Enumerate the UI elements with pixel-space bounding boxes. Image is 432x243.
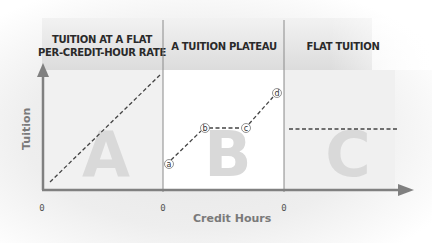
svg-text:a: a: [167, 160, 172, 169]
point-d: d: [273, 89, 282, 99]
tuition-models-diagram: A B C TUITION AT A FLAT PER-CREDIT-HOUR …: [0, 0, 432, 243]
panel-c-heading: FLAT TUITION: [307, 41, 380, 52]
point-b: b: [201, 124, 210, 134]
svg-text:d: d: [274, 89, 279, 98]
panel-b-origin-label: 0: [160, 203, 165, 213]
panel-a-letter: A: [82, 118, 130, 191]
svg-text:b: b: [202, 124, 207, 133]
panel-b-heading: A TUITION PLATEAU: [171, 41, 277, 52]
x-axis-arrow-icon: [398, 184, 414, 196]
panel-a-origin-label: 0: [39, 203, 44, 213]
x-axis-label: Credit Hours: [193, 212, 272, 225]
diagram-canvas: A B C TUITION AT A FLAT PER-CREDIT-HOUR …: [0, 0, 432, 243]
panel-a-heading-line1: TUITION AT A FLAT: [52, 34, 152, 45]
panel-a-heading-line2: PER-CREDIT-HOUR RATE: [38, 47, 166, 58]
point-a: a: [165, 160, 174, 170]
svg-text:c: c: [244, 124, 248, 133]
panel-c-origin-label: 0: [281, 203, 286, 213]
point-c: c: [242, 124, 251, 134]
y-axis-label: Tuition: [20, 108, 33, 150]
